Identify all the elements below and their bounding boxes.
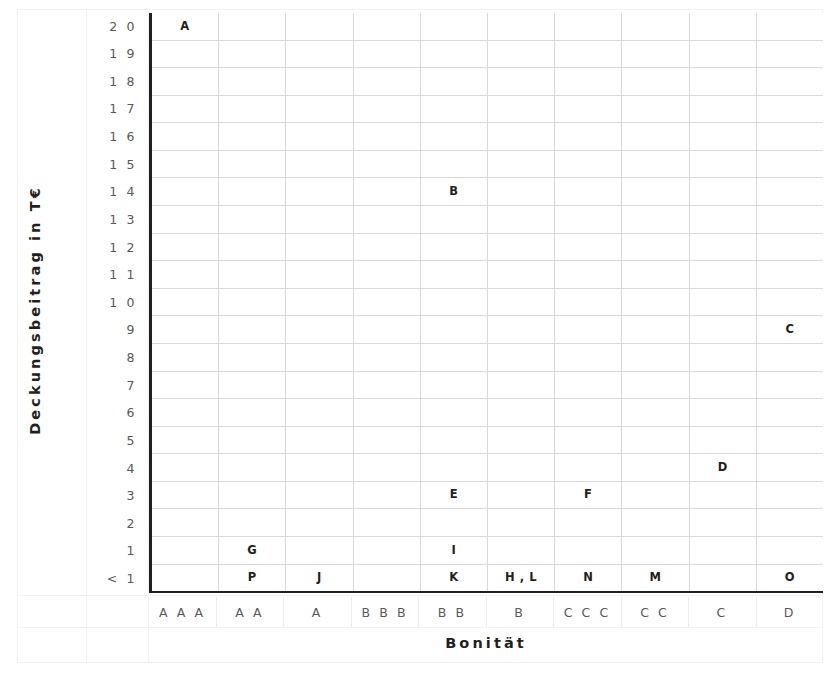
y-axis-title-text: Deckungsbeitrag in T€ <box>27 185 43 435</box>
grid-cell <box>622 537 689 564</box>
grid-cell: N <box>555 565 622 592</box>
grid-cell: E <box>421 482 488 509</box>
grid-cell <box>555 372 622 399</box>
grid-cell <box>219 509 286 536</box>
y-axis-tick: 1 9 <box>86 41 142 69</box>
grid-cell <box>757 344 823 371</box>
grid-cell <box>622 41 689 68</box>
grid-cell <box>690 372 757 399</box>
grid-cell <box>421 261 488 288</box>
grid-cell <box>757 123 823 150</box>
y-axis-tick: 1 3 <box>86 206 142 234</box>
grid-cell: B <box>421 178 488 205</box>
grid-cell <box>488 261 555 288</box>
data-point-label: C <box>785 324 794 336</box>
grid-row: C <box>152 316 823 344</box>
y-axis-tick: 9 <box>86 317 142 345</box>
grid-cell <box>488 316 555 343</box>
grid-row <box>152 41 823 69</box>
grid-row <box>152 96 823 124</box>
grid-cell <box>690 178 757 205</box>
grid-cell <box>219 178 286 205</box>
grid-cell <box>421 13 488 40</box>
grid-cell <box>488 234 555 261</box>
data-point-label: H , L <box>505 572 537 584</box>
grid-cell <box>219 289 286 316</box>
grid-cell <box>622 482 689 509</box>
grid-cell <box>219 123 286 150</box>
grid-cell <box>555 509 622 536</box>
grid-cell <box>152 509 219 536</box>
grid-cell <box>152 234 219 261</box>
grid-cell <box>152 96 219 123</box>
grid-cell <box>421 234 488 261</box>
grid-cell <box>286 344 353 371</box>
scan-frame-hline-2 <box>17 627 823 628</box>
grid-cell <box>354 482 421 509</box>
grid-cell <box>286 68 353 95</box>
grid-cell <box>690 509 757 536</box>
grid-cell: M <box>622 565 689 592</box>
grid-cell <box>757 41 823 68</box>
grid-cell <box>354 123 421 150</box>
grid-cell <box>354 344 421 371</box>
portfolio-matrix-chart: Deckungsbeitrag in T€ 2 01 91 81 71 61 5… <box>0 0 840 679</box>
grid-row <box>152 399 823 427</box>
grid-cell <box>219 454 286 481</box>
grid-cell <box>690 13 757 40</box>
grid-cell <box>421 454 488 481</box>
grid-cell <box>286 537 353 564</box>
grid-cell <box>488 41 555 68</box>
grid-cell <box>690 234 757 261</box>
grid-cell <box>421 372 488 399</box>
grid-cell <box>354 509 421 536</box>
grid-cell <box>286 372 353 399</box>
grid-cell <box>488 178 555 205</box>
grid-row <box>152 289 823 317</box>
grid-cell <box>690 206 757 233</box>
grid-cell <box>286 399 353 426</box>
grid-row: GI <box>152 537 823 565</box>
grid-row <box>152 427 823 455</box>
grid: ABCDEFGIPJKH , LNMO <box>152 13 823 591</box>
grid-cell <box>286 123 353 150</box>
grid-cell <box>421 96 488 123</box>
grid-row: EF <box>152 482 823 510</box>
grid-cell <box>219 399 286 426</box>
grid-cell <box>219 316 286 343</box>
grid-cell <box>152 316 219 343</box>
grid-cell <box>354 454 421 481</box>
grid-cell <box>690 344 757 371</box>
grid-cell <box>421 41 488 68</box>
x-axis-category: B B B <box>352 597 420 627</box>
grid-cell <box>152 123 219 150</box>
grid-cell <box>219 344 286 371</box>
grid-cell <box>152 372 219 399</box>
grid-cell <box>421 206 488 233</box>
grid-cell <box>555 316 622 343</box>
grid-cell <box>354 151 421 178</box>
grid-cell: J <box>286 565 353 592</box>
grid-cell <box>152 178 219 205</box>
grid-row: B <box>152 178 823 206</box>
grid-cell <box>354 289 421 316</box>
grid-cell <box>488 151 555 178</box>
grid-cell <box>690 316 757 343</box>
grid-cell <box>622 151 689 178</box>
grid-cell <box>421 399 488 426</box>
grid-row <box>152 234 823 262</box>
grid-cell <box>690 96 757 123</box>
grid-cell <box>555 68 622 95</box>
grid-cell <box>219 234 286 261</box>
y-axis-tick: 1 1 <box>86 262 142 290</box>
grid-cell <box>152 68 219 95</box>
grid-cell <box>152 289 219 316</box>
grid-cell <box>622 372 689 399</box>
grid-cell <box>286 289 353 316</box>
data-point-label: E <box>450 489 458 501</box>
grid-cell: G <box>219 537 286 564</box>
data-point-label: D <box>718 462 728 474</box>
x-axis-category: A A A <box>149 597 217 627</box>
grid-cell: F <box>555 482 622 509</box>
data-point-label: M <box>650 572 662 584</box>
